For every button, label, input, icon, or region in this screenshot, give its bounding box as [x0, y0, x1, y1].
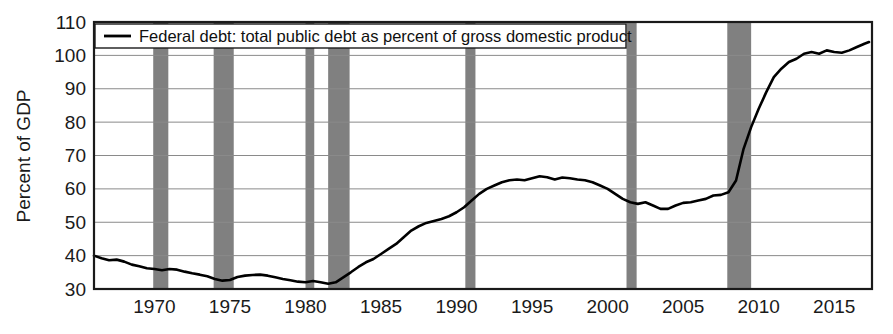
y-axis-tick-label: 50 — [65, 212, 86, 233]
x-axis-tick-label: 1985 — [360, 296, 402, 317]
y-axis-tick-label: 100 — [54, 45, 86, 66]
x-axis-tick-label: 1975 — [209, 296, 251, 317]
x-axis-tick-label: 1990 — [435, 296, 477, 317]
chart-container: 30405060708090100110 1970197519801985199… — [0, 0, 893, 334]
chart-legend: Federal debt: total public debt as perce… — [95, 24, 632, 48]
y-axis-title: Percent of GDP — [13, 89, 34, 222]
y-axis-tick-label: 70 — [65, 145, 86, 166]
legend-label-federal-debt: Federal debt: total public debt as perce… — [139, 27, 632, 45]
y-axis-tick-label: 40 — [65, 245, 86, 266]
x-axis-tick-label: 2000 — [586, 296, 628, 317]
x-axis-tick-label: 1995 — [511, 296, 553, 317]
x-axis-tick-label: 1970 — [133, 296, 175, 317]
y-axis-tick-label: 110 — [56, 12, 86, 33]
x-axis-tick-label: 1980 — [284, 296, 326, 317]
y-axis-tick-label: 30 — [65, 279, 86, 300]
federal-debt-line-chart: 30405060708090100110 1970197519801985199… — [0, 0, 893, 334]
x-axis-tick-label: 2015 — [813, 296, 855, 317]
x-axis-tick-label: 2005 — [662, 296, 704, 317]
y-axis-tick-label: 60 — [65, 178, 86, 199]
y-axis-tick-label: 90 — [65, 78, 86, 99]
y-axis-tick-label: 80 — [65, 112, 86, 133]
x-axis-tick-label: 2010 — [738, 296, 780, 317]
